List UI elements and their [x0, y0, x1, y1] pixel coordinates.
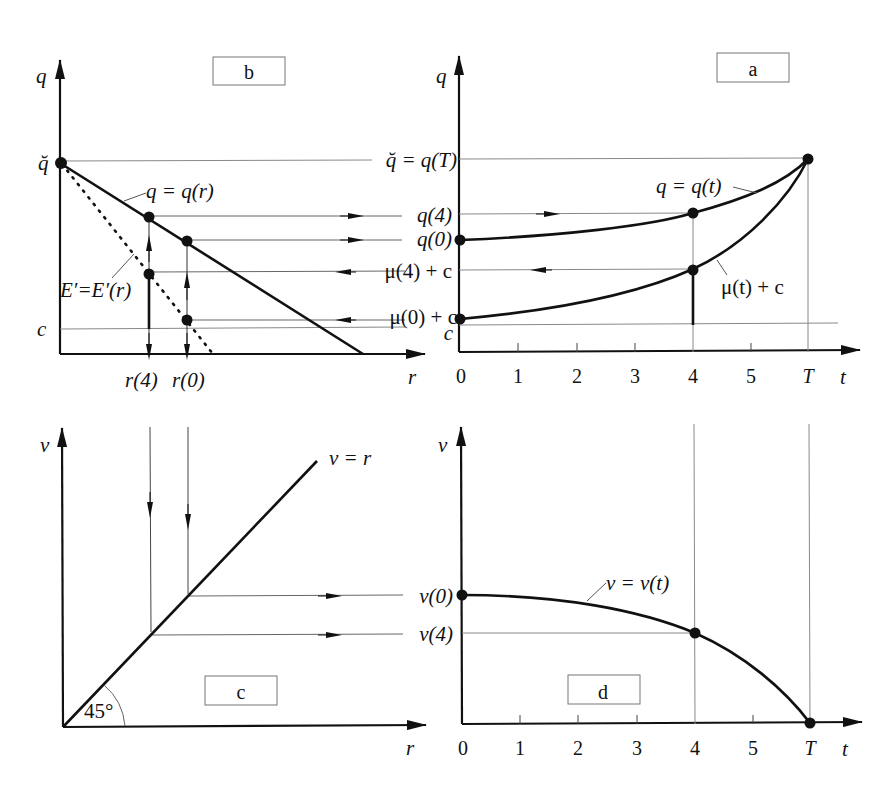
- c-label-b: c: [37, 317, 47, 341]
- panel-a-tag: a: [749, 58, 758, 80]
- panel-d-tick-5: 5: [748, 737, 758, 759]
- r4-vertical-c: [150, 427, 151, 632]
- v0-flow-line-c: [188, 595, 403, 596]
- c-guide-a: [459, 323, 838, 325]
- v4-point-d: [690, 628, 701, 639]
- panel-a-tick-3: 3: [630, 365, 640, 387]
- qbar-label-b: q̆: [38, 151, 49, 175]
- v4-label: v(4): [419, 622, 453, 646]
- v-equals-r-line: [63, 461, 317, 727]
- q0-point-a: [455, 235, 466, 246]
- mu4-point-a: [688, 265, 699, 276]
- panel-d-tag: d: [598, 681, 608, 703]
- panel-d-x-label: t: [842, 737, 849, 761]
- mu-of-t-leader: [717, 260, 727, 275]
- tT-vertical-d: [809, 424, 810, 724]
- panel-a-y-label: q: [436, 64, 447, 88]
- v-equals-r-label: v = r: [329, 446, 372, 470]
- panel-a-tick-5: 5: [746, 365, 756, 387]
- panel-d-x-axis: [462, 722, 862, 724]
- panel-d-tick-3: 3: [632, 737, 642, 759]
- qbar-point-b: [55, 157, 67, 169]
- mu0-point-b: [182, 315, 193, 326]
- four-panel-diagram: b q r: [0, 0, 896, 788]
- q-of-t-label: q = q(t): [656, 174, 722, 198]
- panel-d-tick-T: T: [804, 737, 817, 759]
- q-of-t-leader: [733, 187, 757, 193]
- panel-a-tick-4: 4: [688, 365, 698, 387]
- r4-tick-label: r(4): [125, 368, 158, 392]
- panel-a-tick-2: 2: [572, 365, 582, 387]
- v4-flow-line-c: [151, 634, 403, 635]
- panel-b-y-label: q: [36, 64, 47, 88]
- r0-tick-label: r(0): [172, 368, 205, 392]
- panel-a-x-axis: [459, 350, 860, 352]
- panel-b-x-label: r: [408, 365, 417, 389]
- c-label-a: c: [444, 321, 454, 345]
- panel-b: b q r: [36, 57, 425, 392]
- qT-label: q̆ = q(T): [386, 148, 457, 172]
- q4-guide-a: [459, 213, 693, 214]
- panel-d: d v t 0 1 2 3 4 5 T v(0) v(4) v = v(t): [419, 424, 862, 761]
- q4-point-a: [688, 208, 699, 219]
- e-prime-leader: [112, 254, 134, 278]
- panel-c: c v r v = r 45°: [40, 427, 426, 760]
- qbar-guide-line: [60, 160, 372, 161]
- panel-a: a q t 0 1 2 3 4 5 T: [385, 53, 860, 389]
- panel-a-tick-0: 0: [456, 365, 466, 387]
- panel-c-x-axis: [63, 725, 426, 727]
- panel-a-tick-1: 1: [513, 365, 523, 387]
- v-of-t-label: v = v(t): [606, 571, 669, 595]
- vT-point-d: [805, 718, 816, 729]
- panel-a-x-label: t: [840, 365, 847, 389]
- mu4-guide-a: [459, 269, 693, 270]
- angle-label: 45°: [84, 699, 113, 723]
- panel-d-y-label: v: [438, 433, 448, 457]
- v0-point-d: [457, 590, 468, 601]
- panel-d-tick-2: 2: [573, 737, 583, 759]
- v-of-t-leader: [587, 583, 606, 601]
- panel-a-tick-T: T: [802, 365, 815, 387]
- panel-c-y-axis: [62, 428, 63, 727]
- e-prime-label: E′=E′(r): [59, 278, 131, 302]
- v0-label: v(0): [419, 584, 453, 608]
- mu-of-t-label: μ(t) + c: [721, 275, 784, 299]
- q4-label: q(4): [417, 203, 452, 227]
- panel-c-tag: c: [237, 681, 246, 703]
- panel-d-y-axis: [461, 427, 462, 724]
- qT-point: [803, 154, 814, 165]
- q4-point-b: [144, 212, 155, 223]
- qT-guide-a: [459, 158, 808, 159]
- mu4-point-b: [144, 269, 155, 280]
- panel-c-x-label: r: [406, 736, 415, 760]
- panel-d-tick-1: 1: [515, 737, 525, 759]
- c-guide-line-b: [60, 327, 405, 329]
- q0-point-b: [182, 236, 193, 247]
- panel-d-tick-4: 4: [690, 737, 700, 759]
- q-of-r-leader: [124, 193, 146, 201]
- t4-vertical-d: [694, 424, 695, 724]
- q-of-r-label: q = q(r): [146, 179, 214, 203]
- panel-c-y-label: v: [40, 433, 50, 457]
- q0-label: q(0): [417, 227, 452, 251]
- panel-d-tick-0: 0: [458, 737, 468, 759]
- mu4-label: μ(4) + c: [385, 259, 452, 283]
- panel-b-tag: b: [244, 61, 254, 83]
